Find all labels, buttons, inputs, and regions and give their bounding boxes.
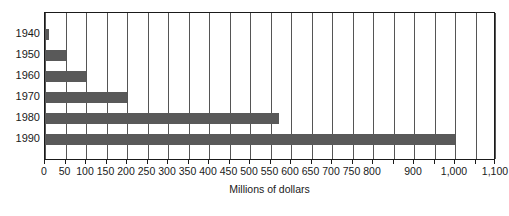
x-axis-label-600: 600 — [281, 165, 299, 178]
table-row — [45, 45, 496, 66]
table-row — [45, 24, 496, 45]
plot-area — [44, 12, 495, 160]
x-axis-label-300: 300 — [158, 165, 176, 178]
bar-1950 — [45, 50, 66, 61]
table-row — [45, 66, 496, 87]
x-axis-tick — [352, 160, 353, 164]
bar-1990 — [45, 134, 455, 145]
y-axis-label-1940: 1940 — [16, 23, 40, 44]
x-axis-label-250: 250 — [138, 165, 156, 178]
x-axis-tick — [331, 160, 332, 164]
x-axis-label-150: 150 — [97, 165, 115, 178]
y-axis-label-1950: 1950 — [16, 44, 40, 65]
x-axis-label-900: 900 — [404, 165, 422, 178]
x-axis-label-650: 650 — [302, 165, 320, 178]
x-axis-tick — [454, 160, 455, 164]
x-axis-label-100: 100 — [76, 165, 94, 178]
bar-1980 — [45, 113, 279, 124]
x-axis-tick — [290, 160, 291, 164]
bar-1940 — [45, 29, 49, 40]
bar-1960 — [45, 71, 86, 82]
x-axis-tick-labels: 0501001502002503003504004505005506006507… — [44, 165, 495, 179]
x-axis-tick — [372, 160, 373, 164]
x-axis-label-700: 700 — [322, 165, 340, 178]
x-axis-label-1000: 1,000 — [441, 165, 467, 178]
y-axis-label-1980: 1980 — [16, 107, 40, 128]
x-axis-tick — [44, 160, 45, 164]
x-axis-tick — [249, 160, 250, 164]
bar-1970 — [45, 92, 127, 103]
x-axis-tick — [413, 160, 414, 164]
x-axis-tick — [167, 160, 168, 164]
x-axis-label-450: 450 — [220, 165, 238, 178]
x-axis-tick — [311, 160, 312, 164]
x-axis-label-500: 500 — [240, 165, 258, 178]
x-axis-tick — [229, 160, 230, 164]
x-axis-tick — [188, 160, 189, 164]
x-axis-tick — [494, 160, 495, 164]
x-axis-label-750: 750 — [343, 165, 361, 178]
x-axis-label-50: 50 — [59, 165, 71, 178]
bars-layer — [45, 13, 494, 159]
y-axis-label-1960: 1960 — [16, 65, 40, 86]
y-axis-label-1970: 1970 — [16, 86, 40, 107]
x-axis-tick — [126, 160, 127, 164]
x-axis-tick — [393, 160, 394, 164]
x-axis-label-800: 800 — [363, 165, 381, 178]
x-axis-tick — [106, 160, 107, 164]
x-axis-title: Millions of dollars — [44, 183, 495, 195]
x-axis-label-1100: 1,100 — [482, 165, 508, 178]
x-axis-tick — [270, 160, 271, 164]
y-axis-category-labels: 194019501960197019801990 — [0, 12, 40, 160]
table-row — [45, 108, 496, 129]
table-row — [45, 129, 496, 150]
x-axis-tick — [434, 160, 435, 164]
bar-chart-figure: 194019501960197019801990 050100150200250… — [0, 0, 509, 216]
x-axis-tick — [208, 160, 209, 164]
x-axis-tick — [65, 160, 66, 164]
x-axis-tick — [147, 160, 148, 164]
x-axis-tick — [475, 160, 476, 164]
x-axis-label-400: 400 — [199, 165, 217, 178]
y-axis-label-1990: 1990 — [16, 128, 40, 149]
x-axis-tick — [85, 160, 86, 164]
table-row — [45, 87, 496, 108]
x-axis-label-200: 200 — [117, 165, 135, 178]
x-axis-label-550: 550 — [261, 165, 279, 178]
x-axis-label-0: 0 — [41, 165, 47, 178]
x-axis-label-350: 350 — [179, 165, 197, 178]
